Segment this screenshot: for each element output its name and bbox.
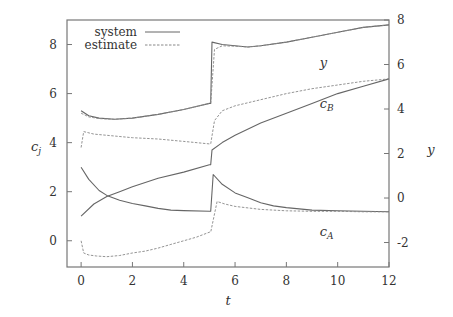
left-y-axis-title: cj	[31, 139, 41, 156]
right-y-tick-label: 4	[397, 102, 405, 116]
left-y-tick-label: 8	[49, 38, 57, 52]
chart: 024681012 02468 -202468 systemestimate y…	[0, 0, 453, 317]
left-y-tick-label: 0	[49, 234, 57, 248]
right-y-tick-label: 2	[397, 147, 405, 161]
plot-frame	[67, 20, 389, 267]
right-y-axis-title: y	[426, 142, 435, 157]
legend-label: system	[95, 25, 138, 39]
right-y-axis-ticks: -202468	[384, 13, 409, 250]
x-tick-label: 8	[283, 274, 291, 288]
left-y-tick-label: 2	[49, 185, 57, 199]
plot-curves	[81, 25, 389, 257]
x-axis-ticks: 024681012	[77, 262, 396, 288]
x-tick-label: 10	[330, 274, 345, 288]
x-tick-label: 0	[77, 274, 85, 288]
x-axis-title: t	[225, 293, 231, 308]
legend-label: estimate	[85, 38, 137, 52]
series-line	[81, 79, 389, 216]
left-y-axis-ticks: 02468	[49, 38, 72, 248]
series-line	[81, 202, 389, 257]
curve-annotation: y	[319, 55, 328, 70]
series-line	[81, 167, 389, 212]
x-tick-label: 6	[231, 274, 239, 288]
x-tick-label: 12	[381, 274, 396, 288]
right-y-tick-label: 6	[397, 58, 405, 72]
legend: systemestimate	[85, 25, 180, 52]
curve-annotations: ycBcA	[319, 55, 334, 241]
right-y-tick-label: 0	[397, 191, 405, 205]
curve-annotation: cA	[320, 224, 334, 241]
left-y-tick-label: 6	[49, 87, 57, 101]
x-tick-label: 4	[180, 274, 188, 288]
x-tick-label: 2	[129, 274, 137, 288]
left-y-tick-label: 4	[49, 136, 57, 150]
curve-annotation: cB	[320, 96, 334, 113]
right-y-tick-label: -2	[397, 236, 409, 250]
series-line	[81, 79, 389, 148]
right-y-tick-label: 8	[397, 13, 405, 27]
